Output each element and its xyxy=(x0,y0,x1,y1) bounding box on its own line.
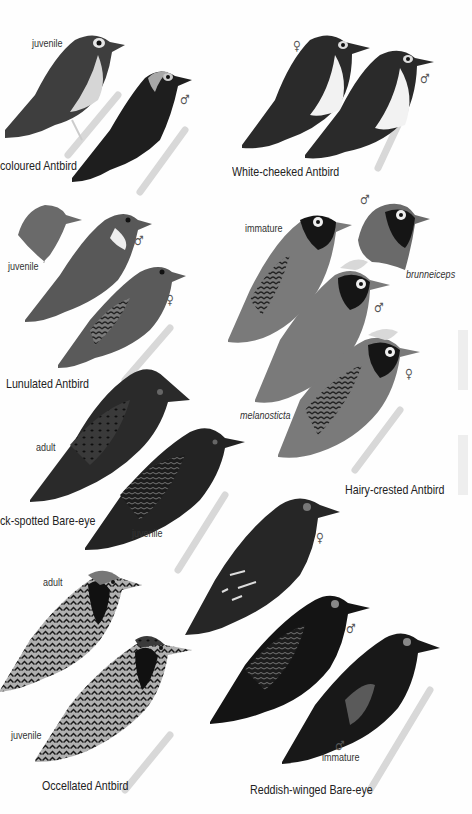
label-lunulated-male: ♂ xyxy=(134,233,144,248)
species-name-lunulated-antbird: Lunulated Antbird xyxy=(6,376,89,391)
label-occellated-adult: adult xyxy=(43,576,63,588)
field-guide-plate: juvenile ♂ coloured Antbird ♀ ♂ White-ch… xyxy=(0,0,472,814)
label-lunulated-juvenile: juvenile xyxy=(8,260,39,272)
species-name-reddish-winged-bare-eye: Reddish-winged Bare-eye xyxy=(250,782,373,797)
label-reddish-winged-immature: immature xyxy=(322,751,360,763)
species-name-black-spotted-bare-eye: ck-spotted Bare-eye xyxy=(0,513,95,528)
label-bicoloured-male: ♂ xyxy=(180,92,190,107)
label-hairy-crested-immature: immature xyxy=(245,222,283,234)
species-name-hairy-crested-antbird: Hairy-crested Antbird xyxy=(345,482,445,497)
label-reddish-winged-male: ♂ xyxy=(346,621,356,636)
label-reddish-winged-female: ♀ xyxy=(316,530,324,545)
species-name-bicoloured-antbird: coloured Antbird xyxy=(0,158,77,173)
label-subspecies-melanosticta: melanosticta xyxy=(240,409,291,421)
label-hairy-crested-female: ♀ xyxy=(405,366,413,381)
label-bicoloured-juvenile: juvenile xyxy=(32,37,63,49)
bird-hairy-crested-brunneiceps-head xyxy=(358,204,430,270)
bird-bicoloured-juvenile xyxy=(5,35,125,140)
label-lunulated-female: ♀ xyxy=(166,292,174,307)
label-hairy-crested-melanosticta-male: ♂ xyxy=(374,300,384,315)
label-black-spotted-juvenile: juvenile xyxy=(132,527,163,539)
bird-lunulated-juvenile-head xyxy=(18,205,82,263)
label-occellated-juvenile: juvenile xyxy=(11,729,42,741)
label-black-spotted-adult: adult xyxy=(36,441,56,453)
species-name-white-cheeked-antbird: White-cheeked Antbird xyxy=(232,164,339,179)
species-name-occellated-antbird: Occellated Antbird xyxy=(42,778,129,793)
label-subspecies-brunneiceps: brunneiceps xyxy=(406,268,455,280)
label-white-cheeked-female: ♀ xyxy=(293,38,301,53)
bird-illustrations xyxy=(0,0,472,814)
label-white-cheeked-male: ♂ xyxy=(420,71,430,86)
label-hairy-crested-brunneiceps-male: ♂ xyxy=(360,192,370,207)
